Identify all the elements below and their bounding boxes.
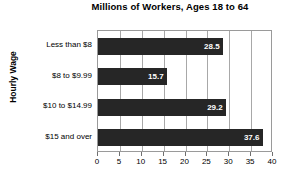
bar-value-label: 29.2 [207, 103, 223, 112]
x-axis-tick-label: 30 [224, 157, 233, 167]
chart-title: Millions of Workers, Ages 18 to 64 [70, 1, 270, 13]
x-axis-tick-label: 0 [95, 157, 99, 167]
x-axis-tick-label: 20 [180, 157, 189, 167]
bar: 37.6 [98, 129, 263, 146]
x-axis-tick-label: 15 [158, 157, 167, 167]
bar: 29.2 [98, 99, 226, 116]
x-axis-tick-label: 40 [268, 157, 277, 167]
y-axis-tick-labels: Less than $8$8 to $9.99$10 to $14.99$15 … [12, 30, 95, 152]
y-axis-tick-label: Less than $8 [46, 40, 92, 50]
x-axis-tick-labels: 0510152025303540 [97, 157, 272, 171]
bar: 15.7 [98, 68, 167, 85]
y-axis-tick-label: $8 to $9.99 [52, 71, 92, 81]
bar-value-label: 28.5 [204, 42, 220, 51]
x-axis-tick-label: 10 [136, 157, 145, 167]
y-axis-tick-label: $15 and over [45, 132, 92, 142]
x-axis-tick [228, 152, 229, 156]
x-axis-tick-label: 35 [246, 157, 255, 167]
plot-area: 28.515.729.237.6 [97, 30, 272, 152]
x-axis-tick-label: 5 [117, 157, 121, 167]
bar-value-label: 15.7 [148, 72, 164, 81]
x-axis-tick [163, 152, 164, 156]
x-axis-tick-label: 25 [202, 157, 211, 167]
bar-chart: Millions of Workers, Ages 18 to 64 Hourl… [0, 0, 281, 180]
x-axis-tick [272, 152, 273, 156]
x-axis-tick [119, 152, 120, 156]
bar: 28.5 [98, 38, 223, 55]
bar-series: 28.515.729.237.6 [98, 31, 271, 151]
x-axis-tick [185, 152, 186, 156]
x-axis-tick [250, 152, 251, 156]
y-axis-tick-label: $10 to $14.99 [43, 101, 92, 111]
bar-value-label: 37.6 [244, 133, 260, 142]
x-axis-tick [206, 152, 207, 156]
x-axis-tick [141, 152, 142, 156]
x-axis-tick [97, 152, 98, 156]
